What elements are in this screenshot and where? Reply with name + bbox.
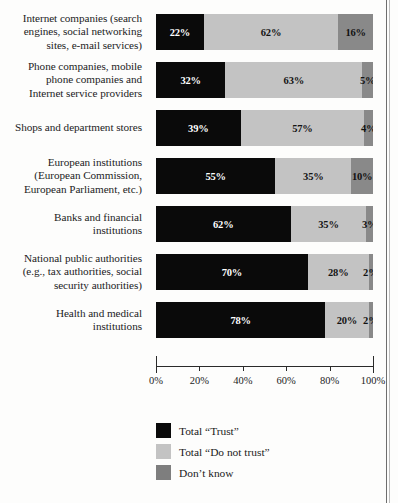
x-axis: 0%20%40%60%80%100% (156, 366, 373, 367)
segment-value-label: 39% (188, 123, 208, 134)
segment-do-not-trust: 62% (204, 14, 339, 50)
category-label-line: Health and medical (56, 307, 142, 320)
category-label-line: (e.g., tax authorities, social (23, 265, 142, 278)
x-axis-tick (373, 366, 374, 373)
segment-dont-know: 16% (338, 14, 373, 50)
stacked-bar: 39%57%4% (156, 110, 373, 146)
trust-swatch (156, 423, 171, 438)
x-axis-tick (330, 366, 331, 371)
x-axis-tick-label: 0% (149, 375, 163, 386)
x-axis-tick-label: 20% (190, 375, 209, 386)
category-label-line: security authorities) (54, 279, 142, 292)
chart-row: Shops and department stores39%57%4% (0, 104, 386, 152)
page-border-rule-secondary (389, 0, 390, 503)
x-axis-tick-label: 100% (361, 375, 386, 386)
segment-value-label: 35% (318, 219, 338, 230)
stacked-bar: 78%20%2% (156, 302, 373, 338)
x-axis-tick-label: 40% (233, 375, 252, 386)
x-axis-tick (199, 366, 200, 371)
segment-do-not-trust: 35% (291, 206, 367, 242)
chart-row: Banks and financialinstitutions62%35%3% (0, 200, 386, 248)
category-label: Banks and financialinstitutions (0, 200, 148, 248)
segment-do-not-trust: 63% (225, 62, 362, 98)
chart-row: National public authorities(e.g., tax au… (0, 248, 386, 296)
stacked-bar: 22%62%16% (156, 14, 373, 50)
x-axis-tick (156, 366, 157, 373)
chart-row: Phone companies, mobilephone companies a… (0, 56, 386, 104)
stacked-bar: 70%28%2% (156, 254, 373, 290)
segment-do-not-trust: 57% (241, 110, 365, 146)
category-label-line: National public authorities (24, 252, 142, 265)
x-axis-tick (286, 366, 287, 371)
segment-value-label: 32% (181, 75, 201, 86)
segment-dont-know: 2% (369, 254, 373, 290)
x-axis-tick-label: 60% (277, 375, 296, 386)
chart-row: Health and medicalinstitutions78%20%2% (0, 296, 386, 344)
legend-label: Don’t know (179, 467, 234, 479)
segment-value-label: 2% (363, 315, 373, 326)
segment-do-not-trust: 35% (275, 158, 351, 194)
segment-dont-know: 2% (369, 302, 373, 338)
segment-value-label: 20% (337, 315, 357, 326)
category-label-line: institutions (93, 320, 142, 333)
category-label-line: sites, e-mail services) (47, 39, 142, 52)
segment-value-label: 78% (230, 315, 250, 326)
plot-area: Internet companies (searchengines, socia… (0, 0, 386, 400)
category-label-line: European Parliament, etc.) (24, 183, 142, 196)
x-axis-tick-label: 80% (320, 375, 339, 386)
segment-dont-know: 5% (362, 62, 373, 98)
stacked-bar: 62%35%3% (156, 206, 373, 242)
category-label-line: phone companies and (46, 73, 142, 86)
segment-value-label: 70% (222, 267, 242, 278)
segment-dont-know: 4% (364, 110, 373, 146)
chart-legend: Total “Trust”Total “Do not trust”Don’t k… (156, 420, 386, 483)
category-label-line: Phone companies, mobile (28, 60, 142, 73)
segment-value-label: 3% (362, 219, 373, 230)
segment-value-label: 22% (170, 27, 190, 38)
segment-value-label: 62% (261, 27, 281, 38)
distrust-swatch (156, 444, 171, 459)
category-label-line: Internet companies (search (23, 12, 142, 25)
segment-value-label: 35% (303, 171, 323, 182)
category-label-line: Internet service providers (29, 87, 142, 100)
segment-dont-know: 3% (366, 206, 373, 242)
segment-value-label: 5% (360, 75, 373, 86)
stacked-bar: 55%35%10% (156, 158, 373, 194)
category-label: European institutions(European Commissio… (0, 152, 148, 200)
segment-value-label: 63% (284, 75, 304, 86)
category-label: Phone companies, mobilephone companies a… (0, 56, 148, 104)
segment-trust: 32% (156, 62, 225, 98)
x-axis-tick (243, 366, 244, 371)
segment-value-label: 28% (328, 267, 348, 278)
category-label-line: Shops and department stores (15, 121, 142, 134)
segment-value-label: 57% (292, 123, 312, 134)
segment-dont-know: 10% (351, 158, 373, 194)
category-label: National public authorities(e.g., tax au… (0, 248, 148, 296)
category-label-line: engines, social networking (24, 25, 142, 38)
category-label: Health and medicalinstitutions (0, 296, 148, 344)
legend-label: Total “Trust” (179, 425, 239, 437)
category-label-line: Banks and financial (54, 211, 142, 224)
category-label-line: institutions (93, 224, 142, 237)
segment-value-label: 62% (213, 219, 233, 230)
segment-value-label: 10% (352, 171, 372, 182)
category-label: Shops and department stores (0, 104, 148, 152)
segment-trust: 62% (156, 206, 291, 242)
dontknow-swatch (156, 465, 171, 480)
chart-row: European institutions(European Commissio… (0, 152, 386, 200)
segment-trust: 39% (156, 110, 241, 146)
category-label: Internet companies (searchengines, socia… (0, 8, 148, 56)
segment-value-label: 16% (345, 27, 365, 38)
stacked-bar: 32%63%5% (156, 62, 373, 98)
segment-trust: 78% (156, 302, 325, 338)
legend-item: Total “Do not trust” (156, 441, 386, 462)
segment-trust: 22% (156, 14, 204, 50)
legend-item: Don’t know (156, 462, 386, 483)
stacked-bar-chart-figure: Internet companies (searchengines, socia… (0, 0, 398, 503)
segment-value-label: 4% (361, 123, 373, 134)
category-label-line: European institutions (48, 156, 142, 169)
segment-trust: 55% (156, 158, 275, 194)
segment-value-label: 2% (363, 267, 373, 278)
legend-label: Total “Do not trust” (179, 446, 270, 458)
segment-do-not-trust: 28% (308, 254, 369, 290)
